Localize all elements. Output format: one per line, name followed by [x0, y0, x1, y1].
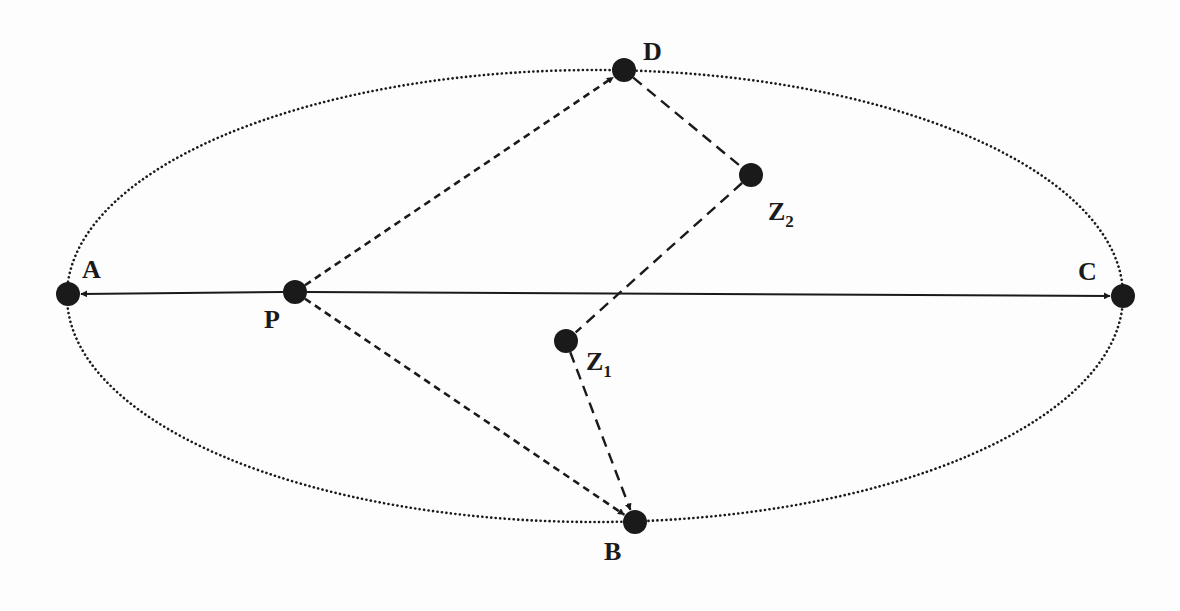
node-b-label: B: [604, 537, 621, 566]
edges-group: [81, 77, 1110, 514]
node-b-dot: [623, 510, 647, 534]
node-p-label: P: [264, 305, 280, 334]
labels-group: APDZ2Z1BC: [82, 37, 1097, 566]
node-c-label: C: [1078, 257, 1097, 286]
node-z1-dot: [554, 329, 578, 353]
edge-d-z2: [633, 78, 741, 167]
edge-p-c: [307, 292, 1110, 296]
node-a-label: A: [82, 255, 101, 284]
node-z2-label: Z2: [768, 197, 794, 231]
node-a-dot: [56, 282, 80, 306]
node-c-dot: [1111, 284, 1135, 308]
ellipse-path-diagram: APDZ2Z1BC: [0, 0, 1180, 611]
edge-z2-z1: [576, 183, 742, 332]
node-z1-label: Z1: [586, 347, 612, 381]
edge-p-a: [81, 292, 283, 294]
node-z2-dot: [739, 163, 763, 187]
diagram-canvas: APDZ2Z1BC: [0, 0, 1180, 611]
node-p-dot: [283, 280, 307, 304]
edge-p-d: [305, 77, 613, 285]
node-d-dot: [612, 58, 636, 82]
node-d-label: D: [643, 37, 662, 66]
